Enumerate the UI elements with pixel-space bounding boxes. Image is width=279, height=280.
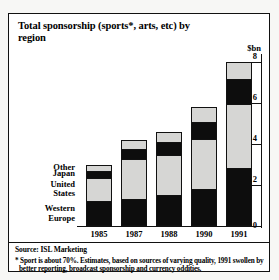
bar-segment-japan-1987	[122, 150, 146, 161]
bar-1987	[121, 140, 147, 226]
bar-segment-western-europe-1987	[122, 200, 146, 225]
x-label-1988: 1988	[149, 229, 189, 239]
footnote-text: * Sport is about 70%. Estimates, based o…	[15, 257, 267, 274]
chart-panel: Total sponsorship (sports*, arts, etc) b…	[8, 13, 270, 272]
bar-segment-united-states-1988	[157, 156, 181, 196]
bar-segment-western-europe-1985	[87, 202, 111, 225]
plot-area: $bn 2468 0 WesternEuropeUnitedStatesJapa…	[9, 14, 271, 228]
bar-segment-united-states-1990	[192, 140, 216, 190]
footer-divider	[9, 242, 269, 243]
bar-segment-other-1985	[87, 166, 111, 173]
x-label-1985: 1985	[79, 229, 119, 239]
source-note: Source: ISL Marketing	[15, 245, 87, 254]
bar-segment-japan-1988	[157, 143, 181, 156]
bar-group	[9, 14, 271, 228]
bar-segment-other-1991	[227, 63, 251, 80]
x-label-1987: 1987	[114, 229, 154, 239]
bar-segment-other-1990	[192, 108, 216, 123]
bar-segment-western-europe-1988	[157, 196, 181, 225]
bar-1985	[86, 165, 112, 227]
bar-segment-united-states-1991	[227, 105, 251, 170]
x-label-1991: 1991	[219, 229, 259, 239]
x-label-1990: 1990	[184, 229, 224, 239]
screenshot-page: Total sponsorship (sports*, arts, etc) b…	[0, 0, 279, 280]
bar-1988	[156, 132, 182, 226]
bar-1990	[191, 107, 217, 226]
bar-segment-united-states-1985	[87, 179, 111, 203]
bar-segment-western-europe-1991	[227, 169, 251, 225]
bar-segment-western-europe-1990	[192, 190, 216, 225]
bar-segment-japan-1991	[227, 80, 251, 105]
bar-segment-japan-1990	[192, 123, 216, 140]
bar-segment-united-states-1987	[122, 160, 146, 200]
bar-segment-japan-1985	[87, 172, 111, 179]
bar-segment-other-1988	[157, 133, 181, 144]
bar-segment-other-1987	[122, 141, 146, 150]
bar-1991	[226, 62, 252, 226]
